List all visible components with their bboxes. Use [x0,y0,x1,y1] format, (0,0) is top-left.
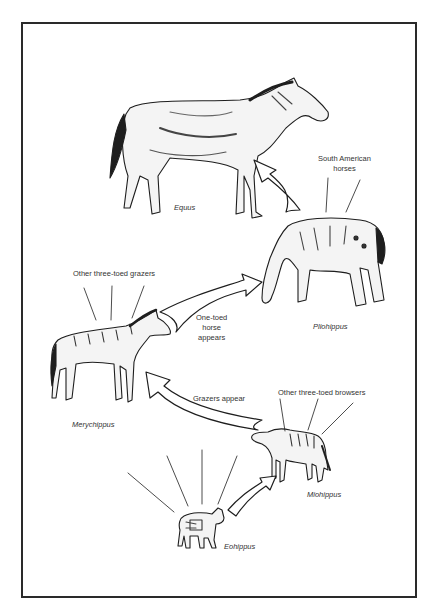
label-miohippus: Miohippus [307,490,341,500]
eohippus-horse-icon [178,508,224,548]
label-merychippus: Merychippus [72,420,115,430]
label-eohippus: Eohippus [224,542,255,552]
label-other-three-toed-grazers: Other three-toed grazers [73,269,155,279]
label-equus: Equus [174,203,195,213]
arrow-eohippus-to-miohippus [228,476,276,516]
miohippus-horse-icon [252,429,330,482]
label-pliohippus: Pliohippus [313,322,348,332]
label-grazers-appear: Grazers appear [193,394,245,404]
arrow-pliohippus-to-equus [254,160,300,212]
equus-horse-icon [110,78,328,218]
horse-evolution-artwork [0,0,439,614]
label-south-american-horses: South American horses [318,154,371,174]
label-one-toed-horse-appears: One-toed horse appears [196,313,227,343]
pliohippus-horse-icon [262,218,385,306]
label-other-three-toed-browsers: Other three-toed browsers [278,388,366,398]
